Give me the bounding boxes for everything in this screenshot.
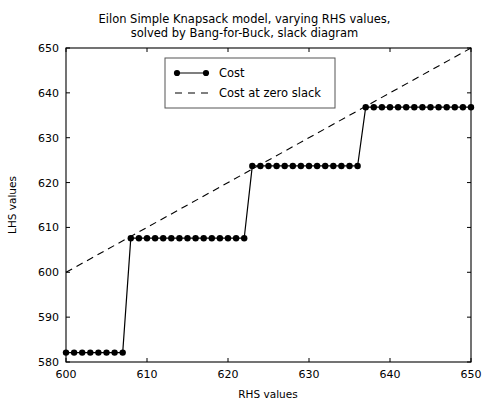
data-point-marker [403, 104, 409, 110]
data-point-marker [103, 349, 109, 355]
data-point-marker [257, 163, 263, 169]
data-point-marker [128, 235, 134, 241]
data-point-marker [160, 235, 166, 241]
data-point-marker [468, 104, 474, 110]
y-tick-label: 600 [38, 266, 59, 279]
data-point-marker [427, 104, 433, 110]
legend-label-cost-at-zero-slack: Cost at zero slack [219, 86, 321, 100]
legend-marker-cost-start [174, 70, 180, 76]
data-point-marker [387, 104, 393, 110]
x-tick-label: 600 [56, 368, 77, 381]
data-point-marker [306, 163, 312, 169]
data-point-marker [209, 235, 215, 241]
data-point-marker [363, 104, 369, 110]
y-tick-label: 630 [38, 132, 59, 145]
data-point-marker [411, 104, 417, 110]
y-tick-label: 650 [38, 42, 59, 55]
y-tick-label: 610 [38, 221, 59, 234]
data-point-marker [282, 163, 288, 169]
data-point-marker [136, 235, 142, 241]
legend: Cost Cost at zero slack [165, 58, 335, 108]
data-point-marker [298, 163, 304, 169]
data-point-marker [314, 163, 320, 169]
data-point-marker [290, 163, 296, 169]
x-tick-label: 650 [461, 368, 482, 381]
data-point-marker [120, 349, 126, 355]
data-point-marker [225, 235, 231, 241]
data-point-marker [354, 163, 360, 169]
data-point-marker [346, 163, 352, 169]
data-point-marker [241, 235, 247, 241]
data-point-marker [273, 163, 279, 169]
data-point-marker [435, 104, 441, 110]
data-point-marker [249, 163, 255, 169]
data-point-marker [322, 163, 328, 169]
y-axis-label: LHS values [6, 176, 18, 234]
data-point-marker [95, 349, 101, 355]
data-point-marker [168, 235, 174, 241]
data-point-marker [201, 235, 207, 241]
data-point-marker [338, 163, 344, 169]
data-point-marker [176, 235, 182, 241]
data-point-marker [63, 349, 69, 355]
y-tick-label: 620 [38, 177, 59, 190]
legend-label-cost: Cost [219, 66, 245, 80]
data-point-marker [460, 104, 466, 110]
data-point-marker [87, 349, 93, 355]
data-point-marker [379, 104, 385, 110]
data-point-marker [233, 235, 239, 241]
plot-area: 600610620630640650 580590600610620630640… [0, 0, 489, 412]
y-tick-label: 580 [38, 356, 59, 369]
legend-marker-cost-end [203, 70, 209, 76]
data-point-marker [79, 349, 85, 355]
data-point-marker [184, 235, 190, 241]
data-point-marker [419, 104, 425, 110]
data-point-marker [71, 349, 77, 355]
data-point-marker [265, 163, 271, 169]
x-tick-label: 610 [137, 368, 158, 381]
data-point-marker [111, 349, 117, 355]
y-tick-label: 590 [38, 311, 59, 324]
data-point-marker [452, 104, 458, 110]
data-point-marker [330, 163, 336, 169]
data-point-marker [144, 235, 150, 241]
data-point-marker [152, 235, 158, 241]
x-tick-label: 640 [380, 368, 401, 381]
data-point-marker [395, 104, 401, 110]
data-point-marker [371, 104, 377, 110]
legend-box [165, 58, 335, 108]
data-point-marker [192, 235, 198, 241]
chart-figure: Eilon Simple Knapsack model, varying RHS… [0, 0, 489, 412]
data-point-marker [444, 104, 450, 110]
x-tick-label: 630 [299, 368, 320, 381]
x-axis-label: RHS values [238, 388, 297, 400]
y-tick-label: 640 [38, 87, 59, 100]
data-point-marker [217, 235, 223, 241]
x-tick-label: 620 [218, 368, 239, 381]
